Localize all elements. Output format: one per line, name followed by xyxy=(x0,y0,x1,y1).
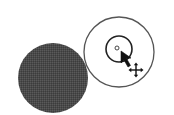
outer-ring-shape[interactable] xyxy=(84,17,154,87)
center-point-marker xyxy=(115,46,119,50)
filled-circle-shape[interactable] xyxy=(18,43,88,113)
figure-canvas xyxy=(0,0,174,115)
diagram-svg xyxy=(0,0,174,115)
